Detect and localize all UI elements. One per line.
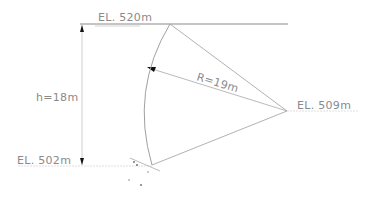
arrow-down-icon <box>80 158 84 165</box>
lower-radius-line <box>152 111 287 165</box>
toe-dot <box>133 161 135 163</box>
height-label: h=18m <box>36 91 78 104</box>
toe-dot <box>140 184 142 186</box>
slip-circle-arc <box>144 24 170 165</box>
upper-radius-line <box>170 24 287 111</box>
radius-label: R=19m <box>195 70 240 95</box>
radius-arrow-icon <box>147 67 156 72</box>
arrow-up-icon <box>80 25 84 32</box>
mid-elevation-label: EL. 509m <box>297 99 351 112</box>
toe-dot <box>128 179 130 181</box>
slope-diagram: EL. 520m h=18m EL. 502m EL. 509m R=19m <box>0 0 376 197</box>
bottom-elevation-label: EL. 502m <box>17 154 71 167</box>
toe-dot <box>147 171 149 173</box>
toe-dot <box>136 164 138 166</box>
top-elevation-label: EL. 520m <box>98 11 152 24</box>
toe-line <box>130 158 160 171</box>
